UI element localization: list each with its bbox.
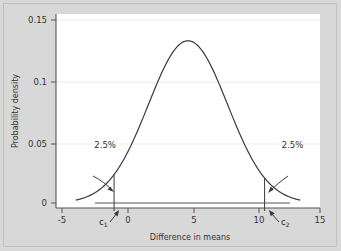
y-axis-ticks xyxy=(51,20,56,203)
c1-label: c1 xyxy=(99,217,108,228)
x-tick-label-15: 15 xyxy=(315,215,326,225)
y-tick-label-0: 0 xyxy=(42,198,47,208)
figure-container: 0.15 0.1 0.05 0 -5 0 5 10 15 Difference … xyxy=(0,0,341,251)
y-tick-label-0.1: 0.1 xyxy=(33,77,47,87)
x-axis-title: Difference in means xyxy=(150,233,230,242)
x-tick-label--5: -5 xyxy=(58,215,66,225)
x-tick-label-5: 5 xyxy=(191,215,196,225)
y-tick-label-0.05: 0.05 xyxy=(28,139,47,149)
probability-density-chart: 0.15 0.1 0.05 0 -5 0 5 10 15 Difference … xyxy=(0,0,341,251)
right-tail-percent-label: 2.5% xyxy=(282,140,304,150)
plot-area-background xyxy=(56,14,320,208)
c2-label: c2 xyxy=(281,217,290,228)
x-axis-ticks xyxy=(62,208,320,213)
x-tick-label-0: 0 xyxy=(125,215,130,225)
y-tick-label-0.15: 0.15 xyxy=(28,15,47,25)
y-axis-title: Probability density xyxy=(11,74,20,148)
c2-pointer-arrowhead xyxy=(269,210,275,216)
left-tail-percent-label: 2.5% xyxy=(94,140,116,150)
x-tick-label-10: 10 xyxy=(254,215,265,225)
